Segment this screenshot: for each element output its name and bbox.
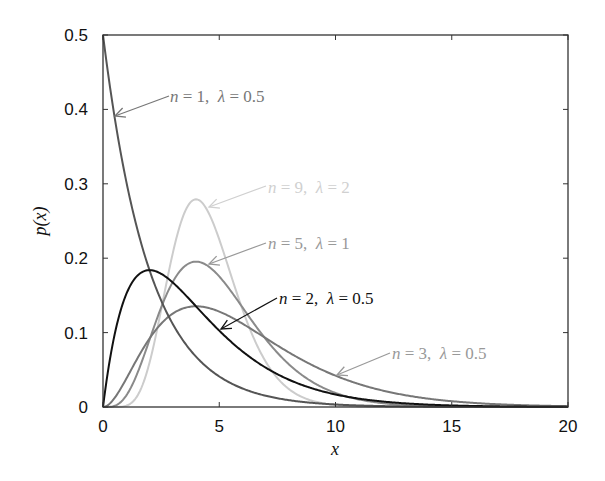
y-tick-label: 0.2: [64, 249, 88, 268]
x-tick-label: 0: [98, 417, 107, 436]
annotation-label: n = 1, λ = 0.5: [170, 87, 265, 106]
x-tick-label: 15: [442, 417, 461, 436]
curve-annotations: n = 1, λ = 0.5n = 9, λ = 2n = 5, λ = 1n …: [115, 87, 487, 376]
y-tick-label: 0.3: [64, 175, 88, 194]
arrow-icon: [337, 353, 390, 375]
y-tick-labels: 00.10.20.30.40.5: [64, 26, 88, 417]
x-tick-label: 20: [559, 417, 578, 436]
x-tick-labels: 05101520: [98, 417, 577, 436]
annotation-label: n = 5, λ = 1: [268, 234, 350, 253]
y-tick-label: 0.4: [64, 100, 88, 119]
arrow-icon: [209, 243, 266, 264]
annotation-n-1-0-5: n = 1, λ = 0.5: [115, 87, 265, 117]
y-tick-label: 0: [79, 398, 88, 417]
y-axis-label: p(x): [30, 207, 51, 238]
arrow-icon: [115, 96, 169, 116]
x-tick-label: 10: [326, 417, 345, 436]
x-tick-label: 5: [215, 417, 224, 436]
y-tick-label: 0.5: [64, 26, 88, 45]
annotation-n-3-0-5: n = 3, λ = 0.5: [337, 344, 487, 376]
annotation-label: n = 2, λ = 0.5: [279, 289, 374, 308]
erlang-pdf-chart: 05101520 00.10.20.30.40.5 x p(x) n = 1, …: [0, 0, 605, 481]
x-axis-label: x: [330, 439, 339, 459]
arrow-icon: [209, 186, 266, 207]
annotation-label: n = 9, λ = 2: [268, 178, 350, 197]
y-tick-label: 0.1: [64, 324, 88, 343]
annotation-n-9-2: n = 9, λ = 2: [209, 178, 350, 208]
annotation-n-5-1: n = 5, λ = 1: [209, 234, 350, 265]
annotation-label: n = 3, λ = 0.5: [392, 344, 487, 363]
